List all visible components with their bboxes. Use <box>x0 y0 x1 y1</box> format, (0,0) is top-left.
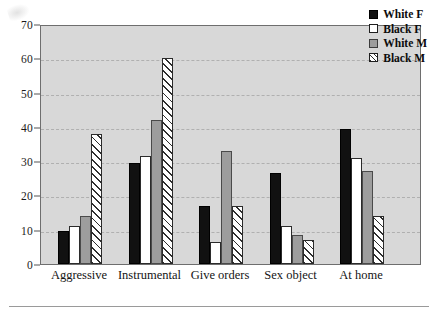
legend-item: White M <box>369 37 427 49</box>
bar-group <box>270 173 314 264</box>
bar <box>270 173 281 264</box>
x-tick-label: Give orders <box>191 268 250 283</box>
bar <box>162 58 173 264</box>
bar <box>340 129 351 264</box>
bar <box>373 216 384 264</box>
horizontal-rule <box>9 306 429 307</box>
bar <box>199 206 210 264</box>
y-tick-label: 50 <box>21 88 33 100</box>
legend-label: White M <box>383 37 427 49</box>
x-axis-labels: AggressiveInstrumentalGive ordersSex obj… <box>40 268 421 290</box>
x-tick-label: At home <box>339 268 382 283</box>
bar-group <box>58 134 102 264</box>
legend-swatch-icon <box>369 39 378 48</box>
legend-swatch-icon <box>369 10 378 19</box>
y-axis: 010203040506070 <box>0 25 40 265</box>
chart-legend: White FBlack FWhite MBlack M <box>369 8 427 64</box>
y-tick-label: 40 <box>21 122 33 134</box>
bar <box>151 120 162 264</box>
x-tick-label: Aggressive <box>51 268 107 283</box>
bar <box>232 206 243 264</box>
legend-item: White F <box>369 8 427 20</box>
figure: 010203040506070 AggressiveInstrumentalGi… <box>0 0 438 320</box>
bar <box>140 156 151 264</box>
legend-label: White F <box>383 8 423 20</box>
y-tick-label: 30 <box>21 156 33 168</box>
plot-inner <box>41 26 420 264</box>
bar <box>281 226 292 264</box>
bar <box>91 134 102 264</box>
bar <box>292 235 303 264</box>
y-tick-label: 0 <box>27 259 33 271</box>
plot-area <box>40 25 421 265</box>
y-tick-label: 20 <box>21 190 33 202</box>
bar <box>210 242 221 264</box>
y-tick-label: 60 <box>21 53 33 65</box>
bar <box>351 158 362 264</box>
y-tick-label: 10 <box>21 225 33 237</box>
legend-swatch-icon <box>369 53 378 62</box>
bar <box>221 151 232 264</box>
bar <box>362 171 373 264</box>
bar-group <box>199 151 243 264</box>
legend-swatch-icon <box>369 24 378 33</box>
legend-item: Black F <box>369 23 427 35</box>
bar <box>69 226 80 264</box>
bar <box>58 231 69 264</box>
bar <box>129 163 140 264</box>
bar <box>303 240 314 264</box>
legend-label: Black F <box>383 23 421 35</box>
bar-group <box>129 58 173 264</box>
x-tick-label: Instrumental <box>118 268 181 283</box>
bar <box>80 216 91 264</box>
legend-item: Black M <box>369 52 427 64</box>
bar-group <box>340 129 384 264</box>
y-tick-label: 70 <box>21 19 33 31</box>
x-tick-label: Sex object <box>264 268 316 283</box>
bar-groups <box>41 26 420 264</box>
legend-label: Black M <box>383 52 425 64</box>
